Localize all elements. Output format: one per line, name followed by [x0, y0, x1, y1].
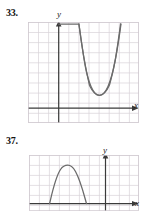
- plot-area-37: [29, 155, 139, 211]
- graph-figure-37: [29, 155, 139, 211]
- exercise-number-37: 37.: [6, 136, 18, 146]
- x-axis-label-37: x: [135, 199, 139, 208]
- exercise-number-33: 33.: [6, 8, 18, 18]
- x-axis-label-33: x: [134, 101, 138, 110]
- y-axis-label-33: y: [57, 10, 61, 19]
- y-axis-label-37: y: [103, 146, 107, 155]
- graph-figure-33: [28, 22, 139, 123]
- coordinate-plane-37: [29, 155, 139, 211]
- coordinate-plane-33: [28, 22, 139, 123]
- exercise-page: 33.: [0, 0, 145, 211]
- grid-background: [29, 155, 139, 211]
- plot-area-33: [28, 22, 139, 123]
